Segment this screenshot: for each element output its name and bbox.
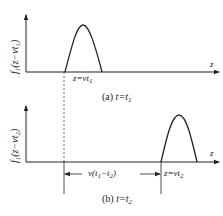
panel-b-y-axis-label: f1(z−vt2) — [9, 129, 22, 163]
panel-a-x-axis-label: z — [210, 59, 214, 69]
panel-b-pulse-position-label: z=vt2 — [164, 168, 184, 180]
panel-a-pulse — [65, 25, 102, 72]
panel-a-plot — [26, 15, 219, 162]
panel-b-x-axis-label: z — [210, 148, 214, 158]
panel-a-caption: (a) t=t1 — [102, 91, 131, 104]
panel-a-pulse-position-label: z=vt1 — [73, 73, 93, 85]
traveling-wave-diagram: f1(z−vt1) z z=vt1 (a) t=t1 f1(z−vt2) z z… — [0, 0, 223, 216]
displacement-label: v(t1−t2) — [88, 168, 116, 180]
panel-b-pulse — [161, 115, 197, 162]
panel-b-caption: (b) t=t2 — [102, 193, 132, 206]
panel-b-plot — [26, 106, 219, 194]
panel-a-y-axis-label: f1(z−vt1) — [9, 40, 22, 74]
diagram-canvas — [0, 0, 223, 216]
